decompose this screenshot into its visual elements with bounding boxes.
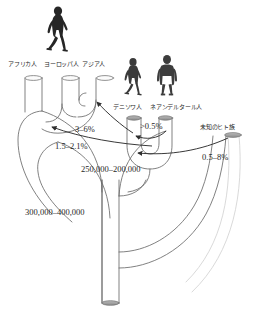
tip-label-denisovan: デニソワ人 xyxy=(113,104,142,110)
date-label-archaic-split: 250,000–200,000 xyxy=(81,165,141,174)
tip-label-neanderthal: ネアンデルタール人 xyxy=(150,104,202,110)
gene-flow-label-denisovan-to-asian: 3–6% xyxy=(75,125,95,134)
evolution-tree-figure: アフリカ人 ヨーロッパ人 アジア人 デニソワ人 ネアンデルタール人 未知のヒト族… xyxy=(0,0,254,313)
gene-flow-label-neanderthal-to-denisovan: >0.5% xyxy=(140,122,163,131)
tip-label-african: アフリカ人 xyxy=(8,61,37,67)
tip-label-unknown: 未知のヒト族 xyxy=(200,124,235,130)
tip-label-european: ヨーロッパ人 xyxy=(44,61,79,67)
arrow-neanderthal-to-denisovan xyxy=(136,131,166,138)
date-label-modern-archaic-split: 300,000–400,000 xyxy=(25,208,85,217)
gene-flow-label-neanderthal-to-nonafrican: 1.5–2.1% xyxy=(55,142,88,151)
tip-label-asian: アジア人 xyxy=(82,61,105,67)
gene-flow-label-unknown-to-denisovan: 0.5–8% xyxy=(202,153,228,162)
